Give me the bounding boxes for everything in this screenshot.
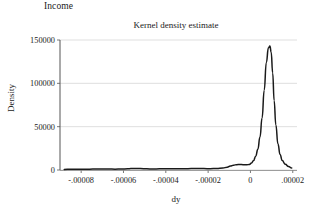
gridlines <box>60 40 297 170</box>
plot-area <box>0 0 311 214</box>
density-curve <box>64 46 291 169</box>
figure-container: Income Kernel density estimate Density d… <box>0 0 311 214</box>
